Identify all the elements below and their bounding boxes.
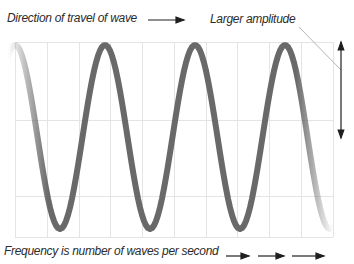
arrowhead — [338, 130, 344, 138]
wave-diagram: Direction of travel of wave Larger ampli… — [0, 0, 354, 264]
larger-amplitude-label: Larger amplitude — [210, 12, 295, 26]
wave-diagram-canvas — [0, 0, 354, 264]
arrowhead — [338, 42, 344, 50]
wave-curve — [8, 45, 332, 229]
frequency-arrow — [258, 253, 284, 259]
arrowhead — [276, 253, 284, 259]
frequency-label: Frequency is number of waves per second — [4, 244, 218, 258]
amplitude-double-arrow — [338, 42, 344, 138]
direction-arrow — [148, 17, 184, 23]
direction-of-travel-label: Direction of travel of wave — [7, 11, 137, 25]
amplitude-pointer-line — [299, 27, 341, 70]
arrowhead — [316, 253, 324, 259]
arrowhead — [241, 253, 249, 259]
frequency-arrow — [226, 253, 249, 259]
frequency-arrow — [292, 253, 324, 259]
arrowhead — [176, 17, 184, 23]
